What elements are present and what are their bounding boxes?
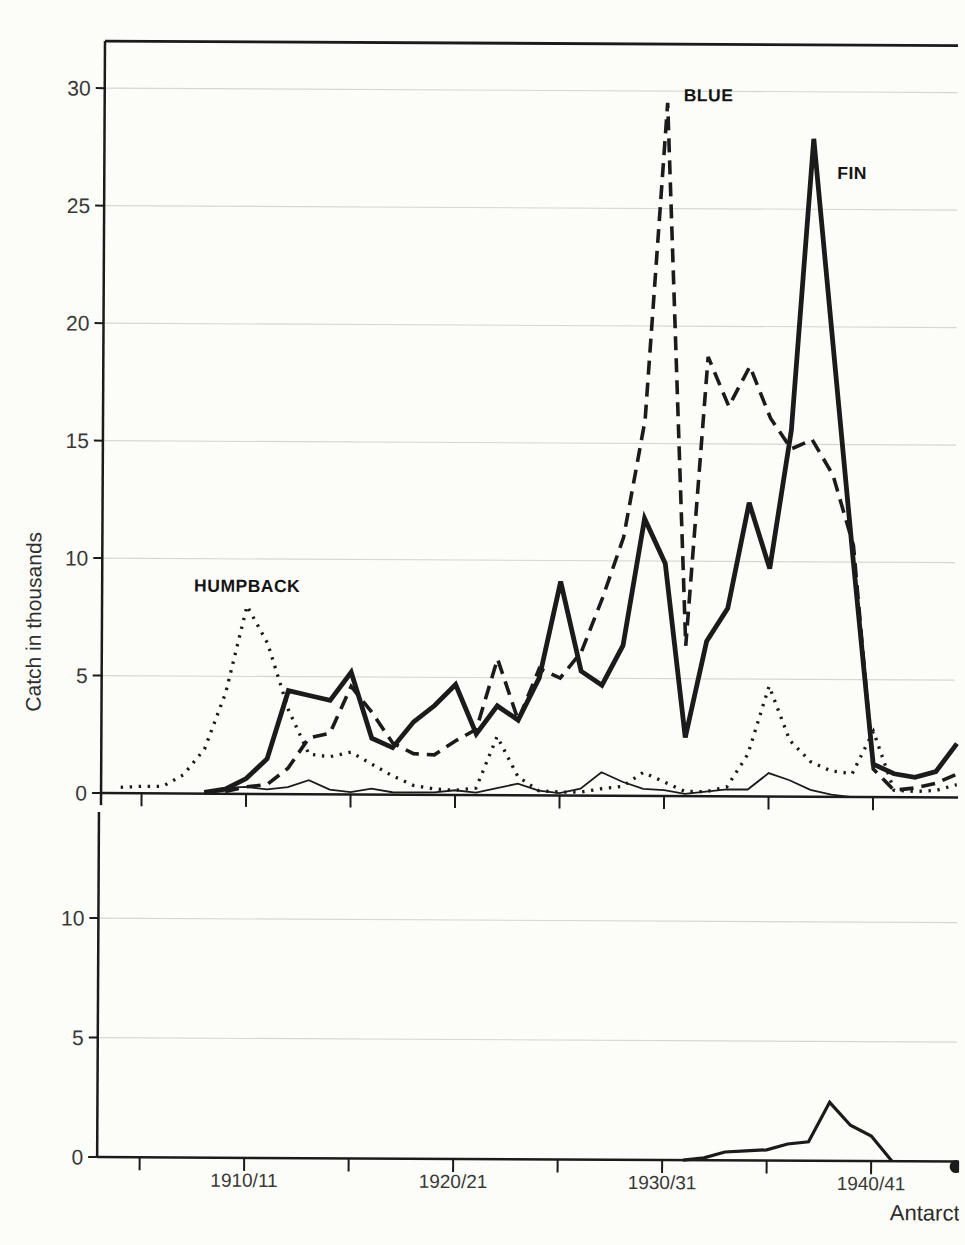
gridline <box>105 88 958 92</box>
data-series <box>119 100 961 1162</box>
y-tick-label: 10 <box>65 546 88 569</box>
ink-blob <box>950 1160 963 1173</box>
gridline <box>104 323 957 327</box>
y-tick-label: 10 <box>61 906 84 929</box>
axes <box>88 41 962 1175</box>
gridlines <box>98 88 962 1042</box>
x-tick-label: 1920/21 <box>419 1171 488 1192</box>
gridline <box>103 441 956 445</box>
gridline <box>104 206 957 210</box>
gridline <box>98 918 957 922</box>
x-tick-label: 1930/31 <box>628 1172 697 1193</box>
series-fin <box>204 136 960 797</box>
series-label-fin: FIN <box>837 163 867 183</box>
x-tick-label: 1910/11 <box>210 1170 277 1191</box>
series-humpback <box>121 605 958 794</box>
y-tick-label: 20 <box>66 311 89 334</box>
gridline <box>98 1038 957 1042</box>
y-tick-label: 5 <box>76 664 88 687</box>
x-axis-title-clipped: Antarct <box>890 1200 960 1225</box>
y-tick-label: 5 <box>72 1026 84 1049</box>
gridline <box>102 558 955 562</box>
scanned-whale-catch-figure: Catch in thousands Antarct 051015202530H… <box>0 0 965 1245</box>
y-tick-label: 0 <box>71 1145 83 1168</box>
series-label-humpback: HUMPBACK <box>194 576 300 597</box>
series-label-blue: BLUE <box>684 85 734 105</box>
series-unlabeled-bottom-series <box>683 1102 892 1162</box>
y-tick-label: 0 <box>75 781 87 804</box>
y-axis-title: Catch in thousands <box>21 532 45 712</box>
y-tick-label: 15 <box>65 429 88 452</box>
y-tick-label: 25 <box>67 194 90 217</box>
whale-catch-chart: Catch in thousands Antarct 051015202530H… <box>0 0 965 1245</box>
x-tick-label: 1940/41 <box>837 1173 906 1194</box>
y-tick-label: 30 <box>67 76 90 99</box>
